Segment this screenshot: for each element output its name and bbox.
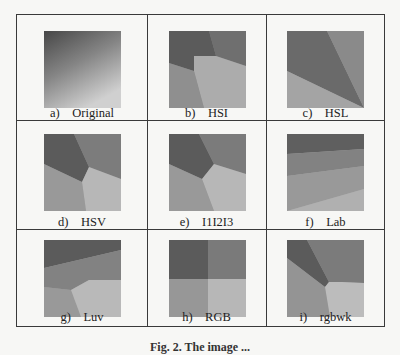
panel-lab: f) Lab [266, 120, 385, 229]
hsi-segmentation-image [169, 31, 246, 108]
panel-label: b) HSI [147, 106, 266, 121]
rgbwk-segmentation-image [287, 240, 364, 317]
panel-label: a) Original [17, 106, 147, 121]
luv-segmentation-image [44, 240, 121, 317]
lab-segmentation-image [287, 134, 364, 211]
panel-label: c) HSL [266, 106, 385, 121]
panel-i1i2i3: e) I1I2I3 [147, 120, 266, 229]
hsv-segmentation-image [44, 134, 121, 211]
i1i2i3-segmentation-image [169, 134, 246, 211]
panel-rgbwk: i) rgbwk [266, 229, 385, 327]
panel-hsv: d) HSV [17, 120, 147, 229]
rgb-segmentation-image [169, 240, 246, 317]
hsl-segmentation-image [287, 31, 364, 108]
panel-original: a) Original [17, 15, 147, 120]
panel-label: f) Lab [266, 215, 385, 230]
figure-caption: Fig. 2. The image ... [150, 340, 250, 355]
panel-hsl: c) HSL [266, 15, 385, 120]
original-image [44, 31, 121, 108]
panel-hsi: b) HSI [147, 15, 266, 120]
panel-rgb: h) RGB [147, 229, 266, 327]
panel-label: h) RGB [147, 310, 266, 325]
panel-label: d) HSV [17, 215, 147, 230]
panel-label: e) I1I2I3 [147, 215, 266, 230]
panel-label: g) Luv [17, 310, 147, 325]
panel-label: i) rgbwk [266, 310, 385, 325]
figure-grid: a) Original b) HSI c) HSL [16, 14, 385, 327]
panel-luv: g) Luv [17, 229, 147, 327]
